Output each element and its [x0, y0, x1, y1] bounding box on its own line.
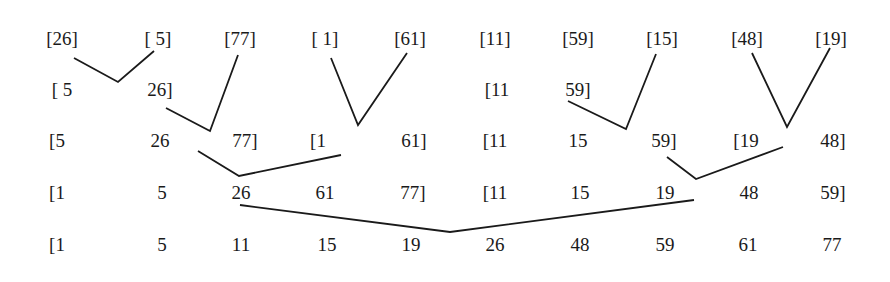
sort-value-cell: [15] [646, 29, 678, 48]
sort-value-cell: [26] [46, 29, 78, 48]
sort-value-cell: 26 [151, 131, 170, 150]
sort-value-cell: 5 [157, 183, 167, 202]
merge-line [667, 147, 783, 179]
merge-sort-diagram: [26][ 5][77][ 1][61][11][59][15][48][19]… [0, 0, 890, 282]
sort-value-cell: [11 [485, 80, 510, 99]
sort-value-cell: 59] [565, 80, 590, 99]
sort-value-cell: [1 [49, 235, 65, 254]
sort-value-cell: 15 [569, 131, 588, 150]
merge-line [198, 151, 341, 176]
sort-value-cell: 19 [656, 183, 675, 202]
sort-value-cell: 77] [400, 183, 425, 202]
sort-value-cell: [ 5 [52, 80, 73, 99]
sort-value-cell: [ 1] [312, 29, 339, 48]
merge-line [166, 55, 238, 131]
sort-value-cell: 61 [739, 235, 758, 254]
sort-value-cell: 59 [656, 235, 675, 254]
merge-line [240, 200, 694, 232]
sort-value-cell: 48 [740, 183, 759, 202]
sort-value-cell: 48 [571, 235, 590, 254]
sort-value-cell: [5 [49, 131, 65, 150]
sort-value-cell: 26 [486, 235, 505, 254]
sort-value-cell: 11 [232, 235, 250, 254]
sort-value-cell: [19] [815, 29, 847, 48]
sort-value-cell: [19 [733, 131, 758, 150]
merge-line [752, 48, 830, 127]
sort-value-cell: [11 [483, 131, 508, 150]
sort-value-cell: [1 [310, 131, 326, 150]
sort-value-cell: 77 [823, 235, 842, 254]
sort-value-cell: [11] [480, 29, 511, 48]
sort-value-cell: 19 [402, 235, 421, 254]
sort-value-cell: 59] [820, 183, 845, 202]
sort-value-cell: [1 [49, 183, 65, 202]
sort-value-cell: 26] [147, 80, 172, 99]
sort-value-cell: 77] [232, 131, 257, 150]
sort-value-cell: 15 [318, 235, 337, 254]
sort-value-cell: 48] [820, 131, 845, 150]
sort-value-cell: 15 [571, 183, 590, 202]
sort-value-cell: [ 5] [145, 29, 172, 48]
sort-value-cell: 59] [651, 131, 676, 150]
sort-value-cell: 5 [157, 235, 167, 254]
sort-value-cell: 26 [232, 183, 251, 202]
sort-value-cell: [61] [394, 29, 426, 48]
sort-value-cell: [77] [224, 29, 256, 48]
sort-value-cell: [48] [731, 29, 763, 48]
merge-line [331, 53, 407, 125]
sort-value-cell: 61 [316, 183, 335, 202]
sort-value-cell: [11 [483, 183, 508, 202]
sort-value-cell: 61] [401, 131, 426, 150]
merge-line [74, 51, 154, 82]
sort-value-cell: [59] [562, 29, 594, 48]
